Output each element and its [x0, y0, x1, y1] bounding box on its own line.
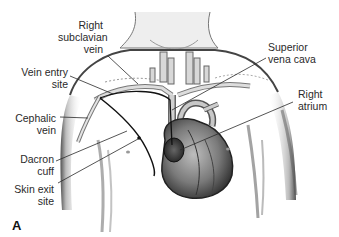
neck	[120, 12, 218, 48]
label-line: site	[8, 78, 68, 90]
label-line: atrium	[298, 100, 338, 112]
clavicle-line	[105, 78, 168, 82]
right-shoulder	[268, 92, 296, 200]
label-dacron-cuff: Dacron cuff	[6, 153, 54, 177]
label-line: site	[4, 195, 54, 207]
label-line: vena cava	[268, 53, 338, 65]
tunneled-catheter	[100, 98, 155, 176]
label-line: Cephalic	[6, 112, 56, 124]
label-right-atrium: Right atrium	[298, 88, 338, 112]
neck-vessels	[150, 52, 209, 84]
label-line: cuff	[6, 165, 54, 177]
leader-vein-entry-site	[70, 76, 113, 94]
label-skin-exit-site: Skin exit site	[4, 183, 54, 207]
label-line: Skin exit	[4, 183, 54, 195]
label-line: Superior	[268, 41, 338, 53]
label-line: Dacron	[6, 153, 54, 165]
label-cephalic-vein: Cephalic vein	[6, 112, 56, 136]
label-line: Right	[298, 88, 338, 100]
catheter	[100, 91, 172, 145]
label-right-subclavian-vein: Right subclavian vein	[58, 19, 103, 55]
panel-letter: A	[12, 218, 21, 233]
label-line: vein	[58, 43, 103, 55]
label-line: Vein entry	[8, 66, 68, 78]
label-line: subclavian	[58, 31, 103, 43]
left-shoulder	[60, 95, 82, 210]
label-vein-entry-site: Vein entry site	[8, 66, 68, 90]
label-superior-vena-cava: Superior vena cava	[268, 41, 338, 65]
label-line: vein	[6, 124, 56, 136]
leader-right-subclavian-vein	[108, 56, 138, 84]
label-line: Right	[58, 19, 103, 31]
